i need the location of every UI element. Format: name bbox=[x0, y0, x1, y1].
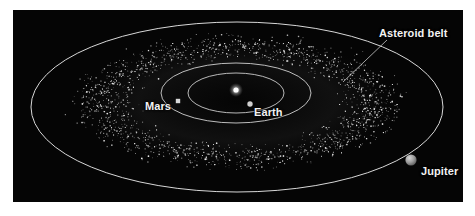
asteroid-belt-diagram: Mars Earth Jupiter Asteroid belt bbox=[0, 0, 475, 216]
jupiter-marker bbox=[405, 154, 416, 165]
label-jupiter: Jupiter bbox=[421, 166, 458, 177]
sun bbox=[233, 87, 238, 92]
mars-marker bbox=[176, 99, 180, 103]
asteroid-belt-haze bbox=[77, 38, 397, 166]
label-earth: Earth bbox=[254, 107, 283, 118]
label-asteroid-belt: Asteroid belt bbox=[379, 28, 448, 39]
label-mars: Mars bbox=[145, 101, 171, 112]
earth-marker bbox=[247, 101, 252, 106]
